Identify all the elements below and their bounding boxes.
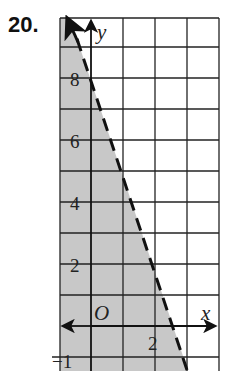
tick-label-y8: 8	[70, 69, 80, 90]
origin-label: O	[94, 301, 109, 325]
x-axis-label: x	[200, 301, 211, 325]
coordinate-graph: y x O 8 6 4 2 2 −1	[0, 0, 225, 371]
tick-label-y2: 2	[70, 255, 80, 276]
tick-label-y6: 6	[70, 131, 80, 152]
tick-label-y-minus1: −1	[52, 351, 72, 371]
tick-label-x2: 2	[148, 333, 158, 354]
y-axis-label: y	[95, 20, 107, 44]
tick-label-y4: 4	[70, 193, 80, 214]
